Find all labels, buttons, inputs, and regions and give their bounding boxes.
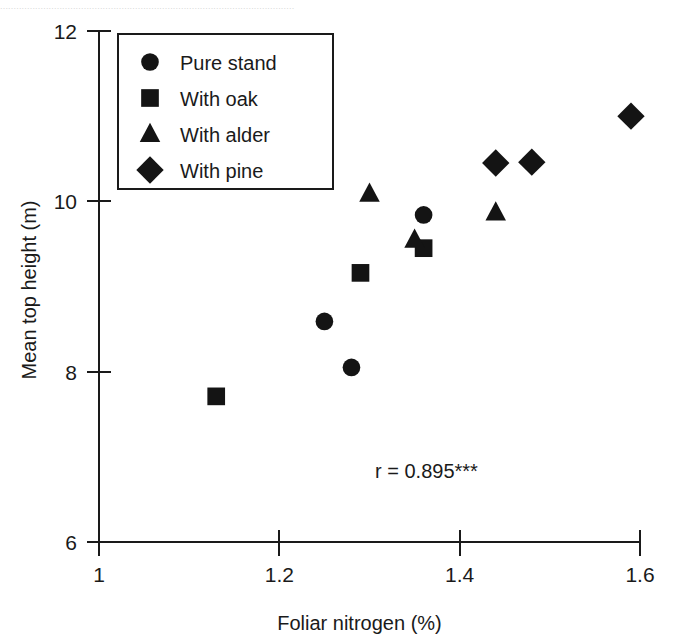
legend-label-with-alder: With alder xyxy=(180,124,270,146)
data-point-square xyxy=(207,388,225,406)
scatter-plot: 68101211.21.41.6 r = 0.895*** Pure stand… xyxy=(0,0,673,644)
y-tick-label-8: 8 xyxy=(65,361,77,384)
data-point-triangle xyxy=(404,228,425,247)
data-point-diamond xyxy=(617,102,644,129)
series-with-alder xyxy=(359,182,506,247)
data-point-triangle xyxy=(359,182,380,201)
axis-titles-group: Foliar nitrogen (%)Mean top height (m) xyxy=(18,201,442,634)
y-tick-label-10: 10 xyxy=(54,190,77,213)
legend-marker-square xyxy=(141,89,159,107)
y-tick-label-6: 6 xyxy=(65,531,77,554)
x-tick-label-1.6: 1.6 xyxy=(625,563,654,586)
series-with-pine xyxy=(482,102,645,176)
legend-entry-with-oak[interactable]: With oak xyxy=(141,88,259,110)
figure-root: ........................................… xyxy=(0,0,673,644)
x-tick-label-1.4: 1.4 xyxy=(445,563,475,586)
data-point-circle xyxy=(415,206,433,224)
data-point-square xyxy=(352,264,370,282)
correlation-annotation: r = 0.895*** xyxy=(375,460,478,482)
annotation-label: r = 0.895*** xyxy=(375,460,478,482)
data-point-diamond xyxy=(518,148,545,175)
legend: Pure standWith oakWith alderWith pine xyxy=(118,34,333,189)
legend-marker-circle xyxy=(141,53,159,71)
legend-label-pure-stand: Pure stand xyxy=(180,52,277,74)
data-point-triangle xyxy=(485,201,506,220)
data-point-diamond xyxy=(482,149,509,176)
y-axis-title: Mean top height (m) xyxy=(18,201,40,380)
x-tick-label-1: 1 xyxy=(93,563,105,586)
x-tick-label-1.2: 1.2 xyxy=(265,563,294,586)
legend-label-with-oak: With oak xyxy=(180,88,259,110)
data-point-circle xyxy=(343,359,361,377)
data-point-circle xyxy=(316,313,334,331)
legend-label-with-pine: With pine xyxy=(180,160,263,182)
x-axis-title: Foliar nitrogen (%) xyxy=(277,612,442,634)
y-tick-label-12: 12 xyxy=(54,20,77,43)
